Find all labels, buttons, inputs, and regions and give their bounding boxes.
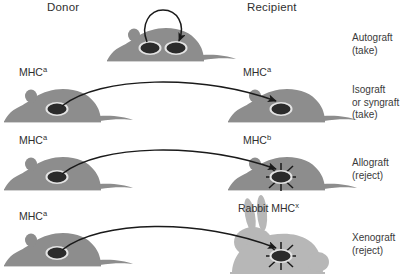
mhc-text: Rabbit MHC: [238, 202, 295, 214]
mhc-superscript: a: [43, 65, 47, 74]
outcome-line-1: Allograft: [352, 157, 389, 170]
mhc-text: MHC: [243, 66, 267, 78]
outcome-line-1: Xenograft: [352, 232, 395, 245]
mhc-text: MHC: [19, 210, 43, 222]
mouse-recipient-isograft: [228, 89, 357, 122]
mhc-label-recipient-xenograft: Rabbit MHCx: [238, 202, 299, 214]
outcome-label-autograft: Autograft (take): [352, 32, 393, 57]
mhc-superscript: a: [43, 133, 47, 142]
mhc-superscript: a: [267, 65, 271, 74]
mhc-label-donor-isograft: MHCa: [19, 66, 47, 78]
mhc-superscript: x: [295, 201, 299, 210]
mhc-text: MHC: [243, 134, 267, 146]
outcome-line-1: Isograft: [352, 84, 399, 97]
mouse-donor-xenograft: [4, 233, 133, 266]
transplant-graft-diagram: Donor Recipient: [0, 0, 408, 280]
mhc-label-donor-allograft: MHCa: [19, 134, 47, 146]
outcome-label-allograft: Allograft (reject): [352, 157, 389, 182]
graft-patch-donor-site: [139, 41, 162, 55]
outcome-line-1: Autograft: [352, 32, 393, 45]
mhc-superscript: a: [43, 209, 47, 218]
mouse-recipient-allograft: [228, 157, 357, 190]
mhc-label-donor-xenograft: MHCa: [19, 210, 47, 222]
mhc-text: MHC: [19, 134, 43, 146]
outcome-label-isograft: Isograft or syngraft (take): [352, 84, 399, 122]
mhc-label-recipient-isograft: MHCa: [243, 66, 271, 78]
outcome-label-xenograft: Xenograft (reject): [352, 232, 395, 257]
graft-patch-recipient-site: [165, 41, 188, 55]
outcome-line-2: (take): [352, 45, 393, 58]
outcome-line-2: (reject): [352, 245, 395, 258]
graft-patch-recipient-isograft: [270, 102, 293, 116]
mouse-donor-isograft: [4, 89, 133, 122]
outcome-line-2: or syngraft: [352, 97, 399, 110]
mhc-text: MHC: [19, 66, 43, 78]
outcome-line-3: (take): [352, 109, 399, 122]
row-autograft-graphics: [0, 0, 408, 280]
mouse-donor-allograft: [4, 157, 133, 190]
mhc-superscript: b: [267, 133, 271, 142]
outcome-line-2: (reject): [352, 170, 389, 183]
mhc-label-recipient-allograft: MHCb: [243, 134, 271, 146]
